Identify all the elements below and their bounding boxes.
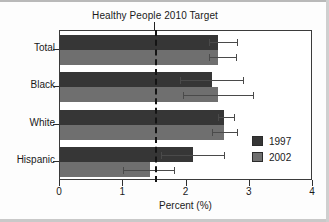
x-tick-label-0: 0: [49, 186, 69, 197]
legend-label-1997: 1997: [269, 136, 291, 147]
error-bar-white-1997: [218, 117, 234, 118]
error-cap-total-1997-low: [209, 39, 210, 46]
error-cap-black-1997-low: [180, 77, 181, 84]
error-bar-white-2002: [212, 132, 237, 133]
scan-edge-top: [0, 0, 329, 2]
error-cap-hispanic-1997-low: [161, 152, 162, 159]
legend-swatch-2002: [252, 152, 263, 162]
bar-white-1997: [60, 110, 224, 125]
error-bar-black-2002: [183, 95, 253, 96]
legend-item-2002[interactable]: 2002: [252, 150, 291, 164]
error-cap-black-1997-high: [243, 77, 244, 84]
error-cap-black-2002-low: [183, 92, 184, 99]
x-axis-label: Percent (%): [59, 200, 312, 211]
x-tick-label-2: 2: [176, 186, 196, 197]
error-cap-total-2002-low: [209, 54, 210, 61]
y-tick-label-hispanic: Hispanic: [3, 154, 59, 165]
chart-legend: 19972002: [252, 134, 308, 170]
error-cap-white-2002-low: [212, 129, 213, 136]
chart-title: Healthy People 2010 Target: [60, 10, 250, 21]
bar-white-2002: [60, 125, 224, 140]
bar-total-1997: [60, 35, 218, 50]
error-cap-white-1997-low: [218, 114, 219, 121]
y-axis-tick-labels: TotalBlackWhiteHispanic: [0, 30, 59, 180]
y-tick-label-total: Total: [3, 42, 59, 53]
target-threshold-line: [155, 30, 157, 182]
error-cap-total-1997-high: [237, 39, 238, 46]
error-cap-hispanic-1997-high: [224, 152, 225, 159]
y-tick-label-white: White: [3, 117, 59, 128]
error-cap-hispanic-2002-low: [123, 167, 124, 174]
error-bar-total-2002: [209, 57, 236, 58]
x-tick-label-1: 1: [112, 186, 132, 197]
y-tick-label-black: Black: [3, 79, 59, 90]
x-tick-label-4: 4: [302, 186, 322, 197]
x-axis-tick-labels: 01234: [0, 186, 329, 199]
error-bar-hispanic-1997: [161, 155, 224, 156]
error-cap-white-1997-high: [234, 114, 235, 121]
target-line-pointer: [154, 22, 155, 30]
scan-edge-bottom: [0, 219, 329, 222]
legend-swatch-1997: [252, 136, 263, 146]
error-cap-black-2002-high: [253, 92, 254, 99]
chart-figure: Healthy People 2010 Target TotalBlackWhi…: [0, 0, 329, 222]
legend-label-2002: 2002: [269, 152, 291, 163]
legend-item-1997[interactable]: 1997: [252, 134, 291, 148]
error-cap-hispanic-2002-high: [174, 167, 175, 174]
error-bar-black-1997: [180, 80, 243, 81]
error-cap-white-2002-high: [237, 129, 238, 136]
bar-total-2002: [60, 50, 218, 65]
error-bar-hispanic-2002: [123, 170, 174, 171]
x-tick-label-3: 3: [239, 186, 259, 197]
error-cap-total-2002-high: [236, 54, 237, 61]
error-bar-total-1997: [209, 42, 237, 43]
